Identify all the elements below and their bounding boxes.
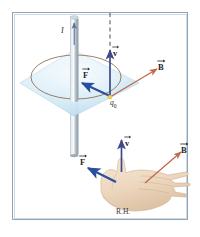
velocity-label-hand-text: v — [125, 138, 129, 148]
vector-overbar-arrow-icon — [157, 59, 166, 63]
force-label-top-text: F — [83, 70, 88, 80]
force-label-hand: F — [80, 158, 85, 167]
charge-label: q0 — [110, 99, 117, 109]
current-wire-upper — [70, 16, 79, 102]
vector-overbar-arrow-icon — [124, 135, 131, 139]
magnetic-field-label-hand-text: B — [181, 145, 187, 155]
figure-artwork — [0, 0, 200, 237]
force-label-top: F — [83, 71, 88, 80]
horizontal-plane — [20, 50, 139, 116]
magnetic-field-label-hand: B — [181, 146, 187, 155]
vector-overbar-arrow-icon — [112, 45, 119, 49]
current-label: I — [61, 27, 64, 35]
right-hand-label: R.H. — [116, 208, 130, 216]
vector-overbar-arrow-icon — [82, 67, 90, 71]
force-label-hand-text: F — [80, 157, 85, 167]
vector-overbar-arrow-icon — [79, 154, 87, 158]
magnetic-field-label-top: B — [158, 63, 164, 72]
right-hand-illustration — [101, 158, 190, 211]
velocity-label-hand: v — [125, 139, 129, 148]
charge-label-subscript: 0 — [114, 103, 117, 109]
magnetic-field-label-top-text: B — [158, 62, 164, 72]
physics-figure: I v B F q0 — [0, 0, 200, 237]
vector-overbar-arrow-icon — [180, 142, 189, 146]
velocity-label-top: v — [113, 49, 117, 58]
velocity-label-top-text: v — [113, 48, 117, 58]
